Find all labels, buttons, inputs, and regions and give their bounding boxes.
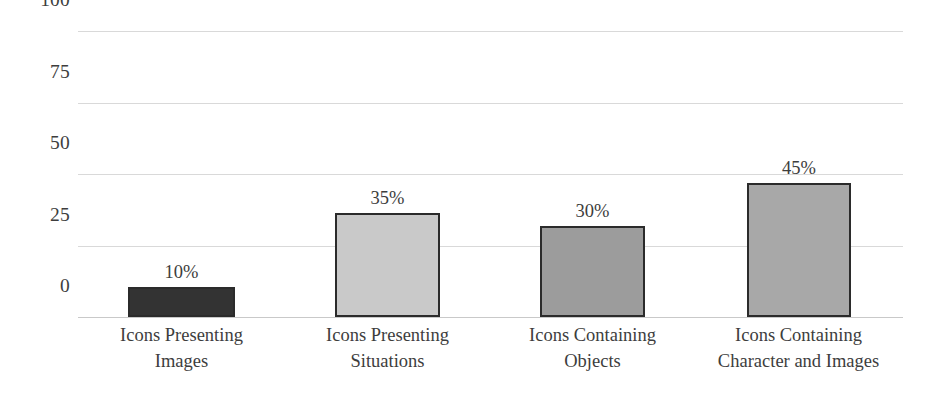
bar-group-2: 35% [335, 31, 440, 317]
x-axis-label-1-line2: Images [73, 348, 290, 374]
x-axis-label-2-line2: Situations [279, 348, 496, 374]
x-axis-label-3-line1: Icons Containing [529, 325, 656, 345]
x-axis-label-4-line2: Character and Images [690, 348, 907, 374]
y-axis-tick-75: 75 [0, 62, 70, 82]
x-axis-label-3-line2: Objects [484, 348, 701, 374]
plot-area: 10% 35% 30% 45% [78, 31, 903, 317]
x-axis-label-3: Icons Containing Objects [484, 322, 701, 374]
gridline-zero-baseline [78, 317, 903, 318]
bar-icons-containing-objects[interactable] [540, 226, 645, 317]
bars-layer: 10% 35% 30% 45% [78, 31, 903, 317]
bar-group-3: 30% [540, 31, 645, 317]
bar-group-4: 45% [747, 31, 851, 317]
x-axis-label-1: Icons Presenting Images [73, 322, 290, 374]
x-axis-category-labels: Icons Presenting Images Icons Presenting… [78, 322, 903, 386]
bar-value-1: 10% [165, 263, 199, 282]
bar-icons-presenting-situations[interactable] [335, 213, 440, 317]
bar-group-1: 10% [128, 31, 235, 317]
y-axis-tick-25: 25 [0, 205, 70, 225]
bar-value-3: 30% [576, 202, 610, 221]
bar-value-4: 45% [782, 159, 816, 178]
x-axis-label-2: Icons Presenting Situations [279, 322, 496, 374]
y-axis-tick-50: 50 [0, 133, 70, 153]
x-axis-label-2-line1: Icons Presenting [326, 325, 449, 345]
bar-chart: 100 75 50 25 0 10% 35% 30% 45% [0, 0, 945, 395]
x-axis-label-4-line1: Icons Containing [735, 325, 862, 345]
y-axis: 100 75 50 25 0 [0, 0, 70, 286]
y-axis-tick-100: 100 [0, 0, 70, 10]
y-axis-tick-0: 0 [0, 276, 70, 296]
bar-icons-containing-character-and-images[interactable] [747, 183, 851, 317]
bar-icons-presenting-images[interactable] [128, 287, 235, 317]
x-axis-label-1-line1: Icons Presenting [120, 325, 243, 345]
bar-value-2: 35% [371, 189, 405, 208]
x-axis-label-4: Icons Containing Character and Images [690, 322, 907, 374]
